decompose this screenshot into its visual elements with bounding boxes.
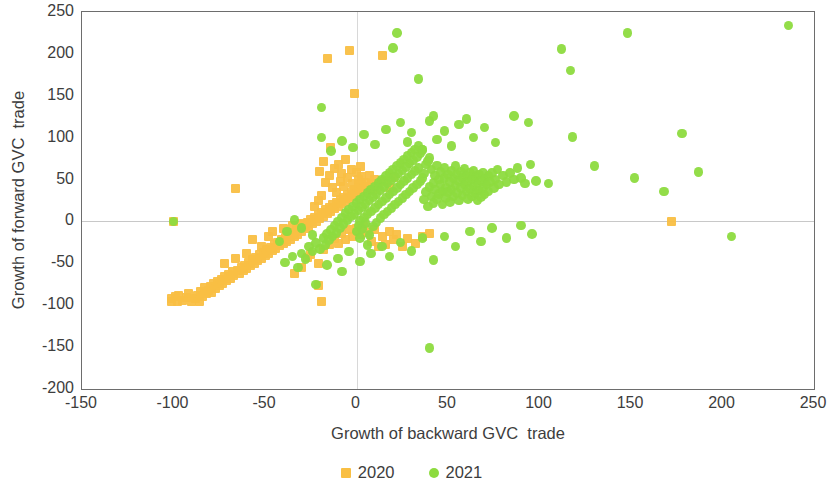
data-point-2021 xyxy=(630,173,640,183)
x-tick-label: -100 xyxy=(133,394,213,412)
data-point-2021 xyxy=(366,249,376,259)
data-point-2020 xyxy=(323,54,332,63)
y-tick-label: -50 xyxy=(14,253,74,271)
data-point-2021 xyxy=(363,240,373,250)
data-point-2021 xyxy=(392,28,402,38)
data-point-2021 xyxy=(381,125,391,135)
data-point-2020 xyxy=(378,51,387,60)
data-point-2021 xyxy=(337,136,347,146)
data-point-2021 xyxy=(370,140,380,150)
data-point-2021 xyxy=(568,132,578,142)
x-tick-label: 50 xyxy=(407,394,487,412)
data-point-2020 xyxy=(242,249,251,258)
data-point-2021 xyxy=(465,227,475,237)
data-point-2021 xyxy=(337,267,347,277)
data-point-2021 xyxy=(385,252,395,262)
data-point-2021 xyxy=(590,161,600,171)
data-point-2021 xyxy=(344,247,354,257)
data-point-2021 xyxy=(469,133,479,143)
data-point-2021 xyxy=(301,254,311,264)
data-point-2021 xyxy=(403,137,413,147)
data-point-2021 xyxy=(282,227,292,237)
data-point-2021 xyxy=(377,242,387,252)
data-point-2021 xyxy=(784,21,794,31)
x-tick-label: 0 xyxy=(316,394,396,412)
data-point-2021 xyxy=(524,118,534,128)
y-tick-label: 0 xyxy=(14,211,74,229)
legend-square-icon xyxy=(341,468,351,478)
y-tick-label: -150 xyxy=(14,337,74,355)
x-tick-label: -50 xyxy=(224,394,304,412)
data-point-2020 xyxy=(317,297,326,306)
data-point-2021 xyxy=(418,233,428,243)
y-tick-label: -100 xyxy=(14,295,74,313)
data-point-2021 xyxy=(288,252,298,262)
data-point-2021 xyxy=(311,280,321,290)
data-point-2021 xyxy=(520,179,530,189)
data-point-2021 xyxy=(407,246,417,256)
data-point-2021 xyxy=(544,179,554,189)
legend-label: 2020 xyxy=(358,463,395,482)
y-tick-label: 100 xyxy=(14,128,74,146)
data-point-2021 xyxy=(727,232,737,242)
data-point-2020 xyxy=(231,184,240,193)
plot-area xyxy=(81,11,815,390)
data-point-2021 xyxy=(322,260,332,270)
data-point-2020 xyxy=(314,259,323,268)
data-point-2021 xyxy=(432,135,442,145)
data-point-2021 xyxy=(333,254,343,264)
data-point-2021 xyxy=(694,167,704,177)
data-point-2021 xyxy=(513,163,523,173)
y-axis-tick-labels: 250200150100500-50-100-150-200 xyxy=(10,11,74,390)
data-point-2020 xyxy=(220,259,229,268)
data-point-2021 xyxy=(487,223,497,233)
data-point-2021 xyxy=(447,141,457,151)
data-point-2021 xyxy=(308,230,318,240)
data-point-2021 xyxy=(293,263,303,273)
data-point-2021 xyxy=(531,176,541,186)
zero-line-horizontal xyxy=(82,221,814,222)
data-point-2021 xyxy=(516,221,526,231)
legend-label: 2021 xyxy=(446,463,483,482)
x-tick-label: 250 xyxy=(773,394,831,412)
data-point-2021 xyxy=(623,28,633,38)
data-point-2020 xyxy=(231,254,240,263)
chart-legend: 20202021 xyxy=(0,463,823,482)
y-tick-label: 150 xyxy=(14,86,74,104)
x-tick-label: 100 xyxy=(499,394,579,412)
data-point-2021 xyxy=(462,114,472,124)
data-point-2021 xyxy=(677,129,687,139)
y-tick-label: 200 xyxy=(14,44,74,62)
legend-item-2020[interactable]: 2020 xyxy=(341,463,395,482)
data-point-2020 xyxy=(315,167,324,176)
data-point-2021 xyxy=(491,138,501,148)
data-point-2021 xyxy=(429,255,439,265)
y-tick-label: 50 xyxy=(14,170,74,188)
data-point-2021 xyxy=(425,343,435,353)
data-point-2020 xyxy=(268,227,277,236)
data-point-2021 xyxy=(414,74,424,84)
x-tick-label: -150 xyxy=(41,394,121,412)
data-point-2021 xyxy=(476,237,486,247)
data-point-2021 xyxy=(317,103,327,113)
data-point-2021 xyxy=(502,233,512,243)
data-point-2021 xyxy=(407,128,417,138)
legend-item-2021[interactable]: 2021 xyxy=(429,463,483,482)
y-tick-label: 250 xyxy=(14,2,74,20)
x-axis-label: Growth of backward GVC trade xyxy=(81,424,815,443)
data-point-2021 xyxy=(290,215,300,225)
data-point-2020 xyxy=(317,191,326,200)
data-point-2021 xyxy=(355,257,365,267)
data-point-2021 xyxy=(509,111,519,121)
data-point-2021 xyxy=(527,229,537,239)
data-point-2021 xyxy=(440,126,450,136)
data-point-2021 xyxy=(659,187,669,197)
data-point-2021 xyxy=(388,43,398,53)
data-point-2021 xyxy=(451,242,461,252)
legend-circle-icon xyxy=(429,468,439,478)
data-point-2020 xyxy=(319,157,328,166)
data-point-2021 xyxy=(359,130,369,140)
data-point-2021 xyxy=(326,146,336,156)
data-point-2020 xyxy=(356,162,365,171)
